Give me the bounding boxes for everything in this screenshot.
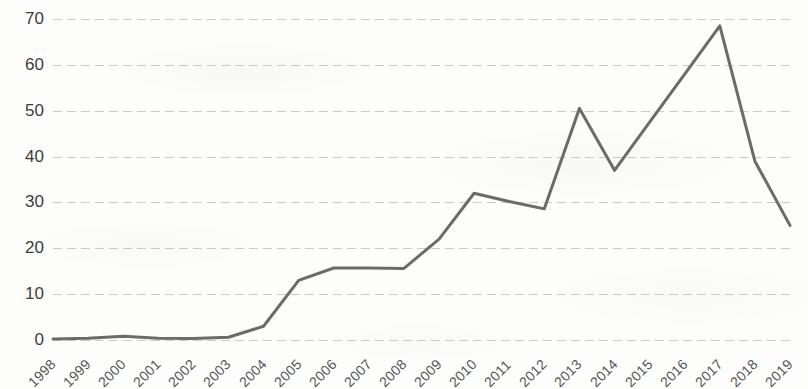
x-axis-tick-label: 2001 <box>130 356 164 389</box>
x-axis-tick-label: 2014 <box>586 356 620 389</box>
x-axis-tick-label: 2010 <box>446 356 480 389</box>
x-axis-tick-label: 2015 <box>621 356 655 389</box>
x-axis-tick-label: 2016 <box>656 356 690 389</box>
x-axis-tick-label: 2006 <box>305 356 339 389</box>
x-axis-tick-label: 2009 <box>411 356 445 389</box>
y-axis-tick-label: 20 <box>4 238 44 258</box>
x-axis-tick-label: 2004 <box>235 356 269 389</box>
y-axis-tick-label: 0 <box>4 330 44 350</box>
y-axis-tick-label: 30 <box>4 192 44 212</box>
x-axis-tick-label: 2013 <box>551 356 585 389</box>
data-series-layer <box>53 19 790 340</box>
line-chart: 010203040506070 199819992000200120022003… <box>0 0 808 389</box>
data-series-line <box>53 26 790 339</box>
gridline <box>53 340 790 341</box>
x-axis-tick-label: 2000 <box>95 356 129 389</box>
x-axis-tick-label: 2008 <box>376 356 410 389</box>
y-axis-tick-label: 70 <box>4 9 44 29</box>
x-axis-tick-label: 2018 <box>727 356 761 389</box>
x-axis-tick-label: 2003 <box>200 356 234 389</box>
plot-area <box>53 19 790 340</box>
x-axis-tick-label: 2005 <box>270 356 304 389</box>
x-axis-tick-label: 1999 <box>60 356 94 389</box>
x-axis-tick-label: 2011 <box>481 357 514 389</box>
x-axis-tick-label: 2002 <box>165 356 199 389</box>
y-axis-tick-label: 10 <box>4 284 44 304</box>
y-axis-tick-label: 60 <box>4 55 44 75</box>
y-axis-tick-label: 50 <box>4 101 44 121</box>
x-axis-tick-label: 2017 <box>692 356 726 389</box>
x-axis: 1998199920002001200220032004200520062007… <box>53 342 790 389</box>
y-axis-tick-label: 40 <box>4 147 44 167</box>
x-axis-tick-label: 2019 <box>762 356 796 389</box>
x-axis-tick-label: 2007 <box>341 356 375 389</box>
x-axis-tick-label: 2012 <box>516 356 550 389</box>
x-axis-tick-label: 1998 <box>25 356 59 389</box>
